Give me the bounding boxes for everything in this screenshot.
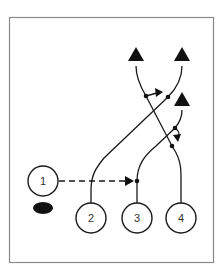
junction-dot [166,95,171,100]
player-4: 4 [166,203,196,233]
player-label: 4 [178,212,184,224]
player-2: 2 [76,203,106,233]
player-label: 1 [40,175,46,187]
play-diagram: 1 2 3 4 [0,0,223,272]
junction-dot [144,94,149,99]
junction-dot [135,179,140,184]
player-label: 2 [88,212,94,224]
player-3: 3 [122,203,152,233]
junction-dot [173,126,178,131]
player-label: 3 [134,212,140,224]
junction-dot [170,144,175,149]
player-1: 1 [28,166,58,196]
football-icon [33,202,53,214]
